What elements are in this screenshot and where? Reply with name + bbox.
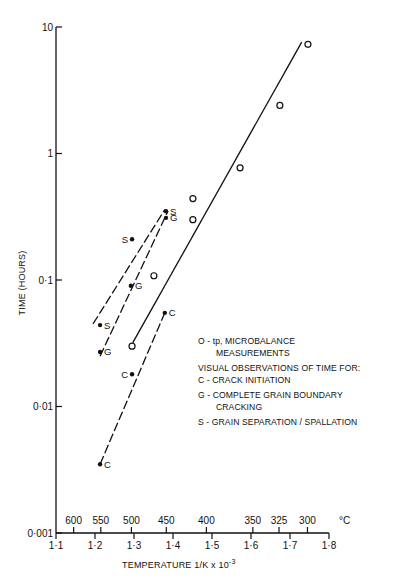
point-c-label: C (169, 307, 176, 318)
celsius-tick-label: 500 (123, 515, 140, 526)
legend-line-visual-observations: VISUAL OBSERVATIONS OF TIME FOR: (198, 362, 360, 374)
y-tick-label: 0·001 (27, 528, 53, 539)
fit-line-s (93, 210, 165, 324)
x-tick-label: 1·2 (88, 540, 103, 551)
celsius-tick-label: 600 (65, 515, 82, 526)
point-c (130, 372, 134, 376)
legend-line-crack-initiation: C - CRACK INITIATION (198, 374, 360, 386)
point-s (98, 323, 102, 327)
y-tick-label: 1 (47, 148, 53, 159)
x-tick-label: 1·3 (127, 540, 142, 551)
legend-line-grain-boundary: G - COMPLETE GRAIN BOUNDARY (198, 389, 360, 401)
point-g (129, 284, 133, 288)
microbalance-point (305, 41, 311, 47)
microbalance-point (277, 102, 283, 108)
x-tick-label: 1·6 (244, 540, 259, 551)
celsius-tick-label: 400 (198, 515, 215, 526)
x-tick-label: 1·8 (322, 540, 337, 551)
x-tick-label: 1·5 (205, 540, 220, 551)
y-axis-title: TIME (HOURS) (17, 251, 27, 316)
point-c (163, 311, 167, 315)
microbalance-point (237, 165, 243, 171)
x-axis-title: TEMPERATURE 1/K x 10-3 (122, 558, 235, 570)
point-s-label: S (104, 320, 110, 331)
point-s (164, 209, 168, 213)
celsius-tick-label: 300 (299, 515, 316, 526)
x-axis-title-exponent: -3 (229, 558, 236, 565)
legend: O - tp, MICROBALANCE MEASUREMENTS VISUAL… (198, 335, 360, 428)
y-tick-label: 0·01 (33, 401, 53, 412)
y-tick-label: 10 (42, 22, 54, 33)
arrhenius-chart: 1010·10·010·0011·11·21·31·41·51·61·71·86… (0, 0, 393, 580)
celsius-tick-label: 450 (158, 515, 175, 526)
celsius-tick-label: 350 (245, 515, 262, 526)
fit-line-microbalance (133, 42, 302, 343)
celsius-unit-label: °C (339, 515, 350, 526)
point-g-label: G (135, 280, 142, 291)
microbalance-point (151, 273, 157, 279)
point-g (98, 350, 102, 354)
x-tick-label: 1·1 (49, 540, 64, 551)
legend-line-measurements: MEASUREMENTS (198, 347, 360, 359)
x-tick-label: 1·4 (166, 540, 181, 551)
legend-line-cracking: CRACKING (198, 401, 360, 413)
x-axis-title-text: TEMPERATURE 1/K x 10 (122, 560, 229, 570)
celsius-tick-label: 550 (92, 515, 109, 526)
legend-line-microbalance: O - tp, MICROBALANCE (198, 335, 360, 347)
point-c-label: C (121, 369, 128, 380)
point-g-label: G (170, 212, 177, 223)
microbalance-point (190, 196, 196, 202)
point-c-label: C (104, 459, 111, 470)
point-g-label: G (104, 346, 111, 357)
point-s-label: S (122, 234, 128, 245)
celsius-tick-label: 325 (271, 515, 288, 526)
point-s (130, 237, 134, 241)
y-tick-label: 0·1 (39, 275, 54, 286)
axes: 1010·10·010·0011·11·21·31·41·51·61·71·86… (27, 22, 350, 552)
point-c (98, 462, 102, 466)
fit-line-c (100, 313, 165, 464)
microbalance-point (190, 217, 196, 223)
microbalance-point (129, 343, 135, 349)
x-tick-label: 1·7 (283, 540, 298, 551)
point-g (164, 216, 168, 220)
legend-line-spallation: S - GRAIN SEPARATION / SPALLATION (198, 416, 360, 428)
